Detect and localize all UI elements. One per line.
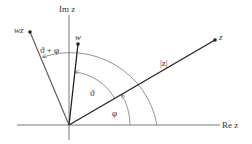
theta-label: ϑ — [90, 88, 95, 98]
theta-arc — [75, 72, 115, 99]
imag-axis-label: Im z — [59, 4, 75, 14]
phi-arc — [122, 95, 130, 125]
z-label: z — [218, 32, 223, 42]
theta-plus-phi-arc — [43, 53, 157, 125]
phi-label: φ — [112, 108, 117, 118]
complex-plane-diagram: Im z Re z z w wz |z| ϑ + φ ϑ φ — [0, 0, 252, 144]
vector-w — [69, 44, 78, 125]
point-w — [76, 42, 80, 46]
point-wz — [28, 30, 32, 34]
modulus-label: |z| — [160, 58, 168, 68]
theta-plus-phi-label: ϑ + φ — [40, 45, 59, 55]
real-axis-label: Re z — [222, 120, 238, 130]
point-z — [213, 38, 217, 42]
w-label: w — [75, 32, 81, 42]
vector-z — [69, 40, 215, 125]
wz-label: wz — [14, 25, 24, 35]
